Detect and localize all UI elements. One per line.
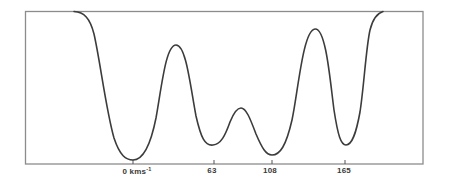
tick-label-63: 63 (207, 166, 216, 175)
tick-label-0-text: 0 kms (123, 167, 147, 176)
tick-label-63-text: 63 (207, 166, 216, 175)
tick-label-108-text: 108 (263, 166, 277, 175)
profile-curve (74, 12, 383, 161)
tick-label-0-exponent: -1 (146, 166, 151, 172)
spectral-profile-chart (0, 0, 451, 182)
tick-label-165-text: 165 (337, 166, 351, 175)
tick-label-165: 165 (337, 166, 351, 175)
tick-label-0: 0 kms-1 (123, 166, 152, 176)
tick-label-108: 108 (263, 166, 277, 175)
